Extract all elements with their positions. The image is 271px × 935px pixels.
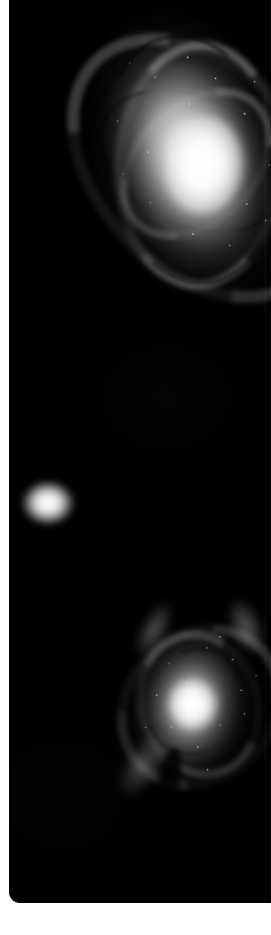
galaxy-upper <box>28 0 271 363</box>
image-crop-canvas <box>0 0 271 935</box>
panel-right-seam <box>265 0 266 903</box>
page-margin-left <box>0 0 9 935</box>
galaxy-lower <box>98 582 271 810</box>
page-margin-bottom <box>0 903 271 935</box>
companion-elliptical-halo <box>22 481 74 525</box>
sky-panel <box>9 0 271 903</box>
companion-elliptical <box>22 481 74 525</box>
